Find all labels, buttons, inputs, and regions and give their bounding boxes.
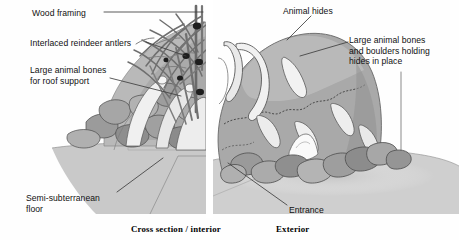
- panel-divider: [206, 0, 213, 218]
- caption-exterior: Exterior: [276, 224, 309, 234]
- label-semi-subterranean-floor: Semi-subterranean floor: [26, 193, 100, 214]
- label-entrance: Entrance: [289, 205, 324, 216]
- label-animal-hides: Animal hides: [283, 6, 333, 17]
- figure-mammoth-bone-dwelling: Wood framing Interlaced reindeer antlers…: [0, 0, 459, 240]
- caption-cross-section: Cross section / interior: [131, 224, 221, 234]
- label-wood-framing: Wood framing: [32, 8, 86, 19]
- label-large-animal-bones-boulders: Large animal bones and boulders holding …: [349, 35, 430, 67]
- label-large-animal-bones-roof: Large animal bones for roof support: [30, 65, 106, 86]
- label-interlaced-reindeer-antlers: Interlaced reindeer antlers: [30, 38, 131, 49]
